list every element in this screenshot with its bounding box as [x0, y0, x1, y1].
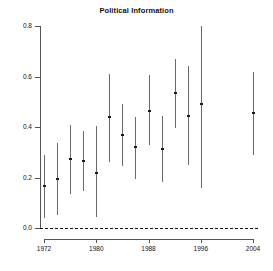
- y-tick-label: 0.2: [0, 174, 32, 181]
- y-tick-label: 0.0: [0, 224, 32, 231]
- x-tick: [149, 239, 150, 243]
- y-tick: [35, 127, 40, 128]
- data-point: [95, 172, 98, 174]
- errorbar: [109, 74, 110, 162]
- data-point: [187, 115, 190, 117]
- x-tick-label: 1980: [78, 245, 114, 252]
- zero-reference-line: [40, 228, 258, 229]
- y-axis: [40, 26, 41, 229]
- x-tick: [201, 239, 202, 243]
- y-tick: [35, 26, 40, 27]
- errorbar: [201, 26, 202, 188]
- data-point: [174, 92, 177, 94]
- y-tick: [35, 228, 40, 229]
- data-point: [56, 178, 59, 180]
- y-tick-label: 0.6: [0, 73, 32, 80]
- x-tick-label: 1972: [26, 245, 62, 252]
- data-point: [108, 116, 111, 118]
- plot-area: 0.00.20.40.60.8 19721980198819962004: [0, 0, 273, 271]
- x-tick-label: 2004: [235, 245, 271, 252]
- y-tick-label: 0.8: [0, 22, 32, 29]
- data-point: [252, 112, 255, 114]
- x-tick: [44, 239, 45, 243]
- data-point: [148, 110, 151, 112]
- x-tick-label: 1996: [183, 245, 219, 252]
- y-tick: [35, 178, 40, 179]
- data-point: [121, 134, 124, 136]
- x-tick: [253, 239, 254, 243]
- data-point: [134, 146, 137, 148]
- data-point: [69, 158, 72, 160]
- data-point: [82, 160, 85, 162]
- x-tick: [96, 239, 97, 243]
- data-point: [161, 148, 164, 150]
- data-point: [200, 103, 203, 105]
- x-tick-label: 1988: [131, 245, 167, 252]
- y-tick: [35, 77, 40, 78]
- chart-container: Political Information 0.00.20.40.60.8 19…: [0, 0, 273, 271]
- y-tick-label: 0.4: [0, 123, 32, 130]
- data-point: [43, 185, 46, 187]
